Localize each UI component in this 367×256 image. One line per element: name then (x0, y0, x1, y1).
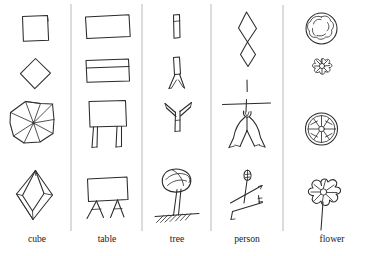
column-label-cube: cube (28, 233, 46, 244)
column-label-flower: flower (319, 233, 345, 244)
figure-canvas: cube table tree person flower (0, 0, 367, 256)
column-label-tree: tree (170, 233, 184, 244)
column-label-person: person (234, 233, 260, 244)
sketch-figure: cube table tree person flower (0, 0, 367, 256)
column-label-table: table (98, 233, 117, 244)
